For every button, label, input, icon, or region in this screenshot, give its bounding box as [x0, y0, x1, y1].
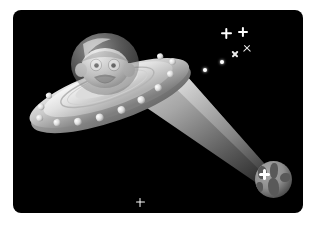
continent-shape [256, 182, 263, 192]
space-scene [13, 10, 303, 213]
star-bottom-icon [136, 198, 145, 207]
cockpit-dome [71, 33, 139, 95]
continent-shape [280, 173, 290, 182]
star-dot-2-icon [203, 68, 207, 72]
star-dot-1-icon [220, 60, 224, 64]
screenshot-stage [0, 0, 314, 225]
ufo-saucer [23, 32, 203, 147]
star-cross-1-icon [241, 42, 254, 55]
planet-earth [255, 161, 292, 198]
continent-shape [268, 178, 279, 196]
impact-flash-icon [260, 170, 269, 179]
continent-shape [270, 163, 278, 179]
star-bright-1-icon [221, 28, 232, 39]
star-cross-2-icon [229, 48, 240, 59]
star-bright-2-icon [238, 27, 248, 37]
